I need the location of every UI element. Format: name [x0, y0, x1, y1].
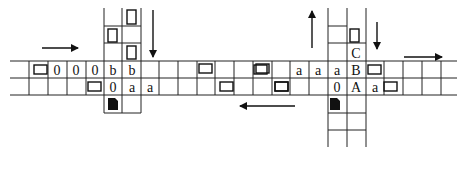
waiting-car-icon [108, 98, 118, 110]
car-icon [199, 64, 212, 73]
waiting-car-icon [330, 98, 340, 110]
traffic-cellular-automaton-diagram: 0 0 0 b b 0 a a a a a B 0 A a C [0, 0, 467, 175]
car-icon [220, 82, 233, 91]
svg-text:0: 0 [73, 63, 80, 78]
svg-text:B: B [351, 63, 360, 78]
svg-text:b: b [110, 63, 117, 78]
svg-text:a: a [147, 80, 154, 95]
svg-text:A: A [351, 80, 362, 95]
car-icon [127, 46, 136, 59]
svg-text:0: 0 [92, 63, 99, 78]
car-icon [350, 29, 359, 42]
svg-text:0: 0 [54, 63, 61, 78]
svg-text:a: a [334, 63, 341, 78]
car-icon [384, 82, 397, 91]
svg-text:a: a [372, 80, 379, 95]
car-icon [127, 10, 136, 24]
car-icon [275, 82, 288, 91]
direction-arrows [42, 10, 442, 107]
svg-text:a: a [129, 80, 136, 95]
car-icon [108, 29, 117, 42]
car-icon [368, 65, 381, 74]
minor-stream-vehicles [108, 98, 340, 110]
car-icon [275, 82, 288, 91]
svg-text:a: a [315, 63, 322, 78]
car-icon [34, 65, 47, 74]
svg-text:C: C [351, 46, 360, 61]
svg-text:0: 0 [110, 80, 117, 95]
svg-text:b: b [129, 63, 136, 78]
svg-text:a: a [296, 63, 303, 78]
svg-text:0: 0 [334, 80, 341, 95]
car-icon [88, 82, 101, 91]
